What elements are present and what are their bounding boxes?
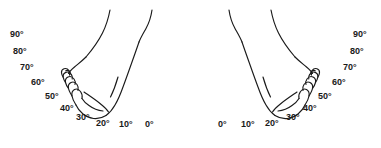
foot-angle-scale-diagram: 90° 80° 70° 60° 50° 40° 30° 20° 10° 0°	[0, 0, 381, 148]
angle-label-90: 90°	[353, 30, 367, 39]
angle-label-90: 90°	[10, 30, 24, 39]
angle-label-0: 0°	[218, 120, 227, 129]
angle-label-10: 10°	[241, 120, 255, 129]
angle-label-10: 10°	[119, 120, 133, 129]
angle-label-20: 20°	[96, 119, 110, 128]
angle-label-50: 50°	[45, 92, 59, 101]
left-foot-angle-scale: 90° 80° 70° 60° 50° 40° 30° 20° 10° 0°	[0, 0, 190, 148]
right-foot-panel: 90° 80° 70° 60° 50° 40° 30° 20° 10° 0°	[191, 0, 381, 148]
angle-label-60: 60°	[332, 78, 346, 87]
angle-label-70: 70°	[343, 63, 357, 72]
angle-label-60: 60°	[31, 78, 45, 87]
angle-label-20: 20°	[265, 119, 279, 128]
angle-label-40: 40°	[303, 104, 317, 113]
angle-label-50: 50°	[318, 92, 332, 101]
right-foot-angle-scale: 90° 80° 70° 60° 50° 40° 30° 20° 10° 0°	[191, 0, 381, 148]
angle-label-30: 30°	[76, 113, 90, 122]
angle-label-70: 70°	[20, 63, 34, 72]
angle-label-80: 80°	[350, 47, 364, 56]
angle-label-30: 30°	[286, 113, 300, 122]
angle-label-0: 0°	[145, 120, 154, 129]
angle-label-80: 80°	[13, 47, 27, 56]
angle-label-40: 40°	[60, 104, 74, 113]
left-foot-panel: 90° 80° 70° 60° 50° 40° 30° 20° 10° 0°	[0, 0, 190, 148]
